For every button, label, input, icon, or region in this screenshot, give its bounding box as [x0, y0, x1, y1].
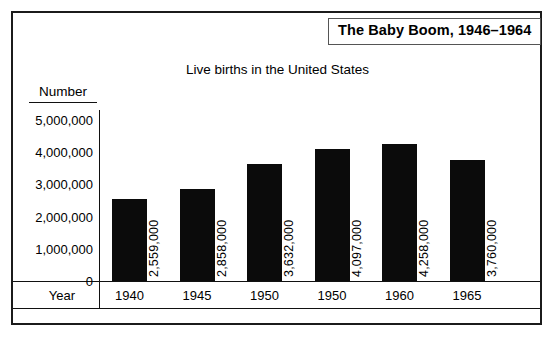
bar-value-label: 2,858,000 [215, 220, 229, 277]
x-axis-tick-label: 1950 [230, 288, 299, 303]
plot-area: 5,000,0004,000,0003,000,0002,000,0001,00… [0, 0, 555, 338]
bar-value-label: 4,097,000 [350, 220, 364, 277]
bar [180, 189, 215, 281]
bar-value-label: 3,760,000 [485, 220, 499, 277]
y-axis-tick-label: 3,000,000 [7, 177, 99, 192]
bar [382, 144, 417, 281]
bar [315, 149, 350, 281]
y-axis-tick-label: 4,000,000 [7, 145, 99, 160]
y-axis-tick-label: 2,000,000 [7, 209, 99, 224]
bar [247, 164, 282, 281]
x-axis-caption: Year [31, 288, 93, 303]
y-axis-tick-label: 0 [7, 274, 99, 289]
y-axis-tick-label: 1,000,000 [7, 241, 99, 256]
chart-figure: The Baby Boom, 1946–1964 Live births in … [0, 0, 555, 338]
y-axis-line [99, 110, 100, 308]
bar-value-label: 3,632,000 [282, 220, 296, 277]
bar [112, 199, 147, 281]
x-axis-tick-label: 1940 [95, 288, 164, 303]
x-axis-tick-label: 1965 [433, 288, 502, 303]
x-axis-tick-label: 1960 [365, 288, 434, 303]
x-axis-tick-label: 1950 [298, 288, 367, 303]
bar-value-label: 2,559,000 [147, 220, 161, 277]
y-axis-tick-label: 5,000,000 [7, 113, 99, 128]
bar [450, 160, 485, 281]
x-axis-tick-label: 1945 [163, 288, 232, 303]
bar-value-label: 4,258,000 [417, 220, 431, 277]
